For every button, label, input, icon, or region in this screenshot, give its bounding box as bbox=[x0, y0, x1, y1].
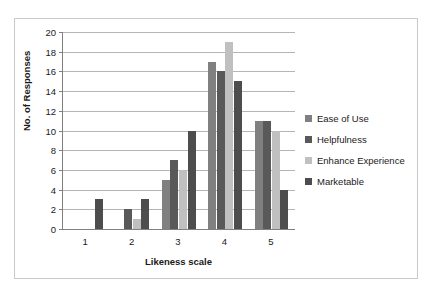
y-axis-tick-label: 10 bbox=[45, 125, 56, 136]
legend-item[interactable]: Marketable bbox=[305, 171, 423, 192]
chart-legend: Ease of UseHelpfulnessEnhance Experience… bbox=[305, 108, 423, 192]
bar-group bbox=[156, 32, 202, 229]
bar bbox=[272, 131, 280, 230]
bar bbox=[263, 121, 271, 229]
bar bbox=[280, 190, 288, 229]
x-axis-tick-label: 3 bbox=[175, 236, 180, 247]
bar bbox=[179, 170, 187, 229]
legend-swatch-icon bbox=[305, 136, 312, 143]
bar bbox=[124, 209, 132, 229]
y-axis-tick-label: 6 bbox=[51, 164, 56, 175]
y-axis-tick-label: 20 bbox=[45, 27, 56, 38]
bar bbox=[225, 42, 233, 229]
y-axis-tick-label: 18 bbox=[45, 46, 56, 57]
y-axis-tick-label: 8 bbox=[51, 145, 56, 156]
y-axis-tick-label: 12 bbox=[45, 105, 56, 116]
legend-swatch-icon bbox=[305, 157, 312, 164]
y-axis-title: No. of Responses bbox=[21, 51, 32, 131]
y-axis-tick-label: 4 bbox=[51, 184, 56, 195]
bar bbox=[188, 131, 196, 230]
x-axis-tick-label: 4 bbox=[222, 236, 227, 247]
legend-item-label: Enhance Experience bbox=[317, 155, 405, 166]
bar bbox=[162, 180, 170, 229]
y-axis-tick-label: 0 bbox=[51, 224, 56, 235]
y-axis-tick bbox=[59, 229, 63, 230]
y-axis-tick-label: 14 bbox=[45, 86, 56, 97]
y-axis-tick-label: 2 bbox=[51, 204, 56, 215]
chart-figure: No. of Responses 02468101214161820 12345… bbox=[0, 0, 438, 300]
bar bbox=[234, 81, 242, 229]
bar-group bbox=[249, 32, 295, 229]
bar bbox=[141, 199, 149, 229]
y-axis-tick-label: 16 bbox=[45, 66, 56, 77]
legend-item[interactable]: Helpfulness bbox=[305, 129, 423, 150]
legend-item[interactable]: Enhance Experience bbox=[305, 150, 423, 171]
bar bbox=[217, 71, 225, 229]
legend-swatch-icon bbox=[305, 115, 312, 122]
legend-item[interactable]: Ease of Use bbox=[305, 108, 423, 129]
plot-area: 02468101214161820 bbox=[62, 32, 295, 230]
bar-group bbox=[202, 32, 248, 229]
bar bbox=[255, 121, 263, 229]
bar-group bbox=[109, 32, 155, 229]
legend-item-label: Helpfulness bbox=[317, 134, 367, 145]
bar-group bbox=[63, 32, 109, 229]
legend-item-label: Ease of Use bbox=[317, 113, 369, 124]
bar bbox=[133, 219, 141, 229]
bar bbox=[208, 62, 216, 229]
bar bbox=[95, 199, 103, 229]
x-axis-title: Likeness scale bbox=[62, 256, 295, 267]
x-axis-tick-label: 2 bbox=[129, 236, 134, 247]
x-axis-tick-label: 5 bbox=[268, 236, 273, 247]
legend-item-label: Marketable bbox=[317, 176, 364, 187]
x-axis-tick-labels: 12345 bbox=[62, 236, 295, 250]
legend-swatch-icon bbox=[305, 178, 312, 185]
x-axis-tick-label: 1 bbox=[83, 236, 88, 247]
bar bbox=[170, 160, 178, 229]
